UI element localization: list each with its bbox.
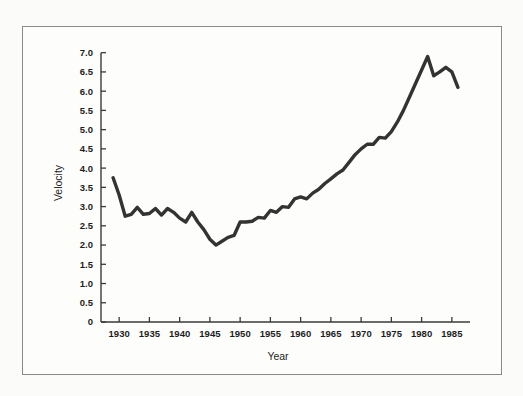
x-tick-label: 1975 [381, 328, 403, 339]
y-tick-label: 0 [88, 316, 93, 327]
y-tick-label: 2.5 [80, 220, 94, 231]
y-tick-label: 0.5 [80, 297, 94, 308]
figure-root: 00.51.01.52.02.53.03.54.04.55.05.56.06.5… [0, 0, 523, 396]
x-axis-title: Year [267, 350, 289, 362]
x-tick-label: 1940 [169, 328, 190, 339]
y-tick-label: 1.5 [80, 259, 94, 270]
y-tick-label: 6.5 [80, 66, 94, 77]
y-tick-label: 3.5 [80, 182, 94, 193]
y-tick-label: 6.0 [80, 86, 93, 97]
y-tick-label: 7.0 [80, 47, 93, 58]
x-tick-label: 1985 [441, 328, 463, 339]
x-axis: 1930193519401945195019551960196519701975… [101, 317, 470, 339]
y-tick-label: 3.0 [80, 201, 93, 212]
y-tick-label: 2.0 [80, 239, 93, 250]
x-tick-label: 1955 [260, 328, 282, 339]
y-tick-label: 5.5 [80, 105, 94, 116]
y-tick-label: 4.0 [80, 163, 93, 174]
y-tick-label: 5.0 [80, 124, 93, 135]
x-tick-label: 1970 [351, 328, 372, 339]
y-axis-title: Velocity [52, 164, 64, 201]
x-tick-label: 1930 [109, 328, 130, 339]
data-line-velocity [113, 57, 458, 246]
x-tick-label: 1935 [139, 328, 161, 339]
x-tick-label: 1960 [290, 328, 311, 339]
data-series-group [113, 57, 458, 246]
x-tick-label: 1950 [230, 328, 251, 339]
y-tick-label: 4.5 [80, 143, 94, 154]
x-tick-label: 1980 [411, 328, 432, 339]
line-chart: 00.51.01.52.02.53.03.54.04.55.05.56.06.5… [0, 0, 523, 396]
y-axis: 00.51.01.52.02.53.03.54.04.55.05.56.06.5… [80, 47, 106, 327]
x-tick-label: 1945 [199, 328, 221, 339]
y-tick-label: 1.0 [80, 278, 93, 289]
x-tick-label: 1965 [320, 328, 342, 339]
